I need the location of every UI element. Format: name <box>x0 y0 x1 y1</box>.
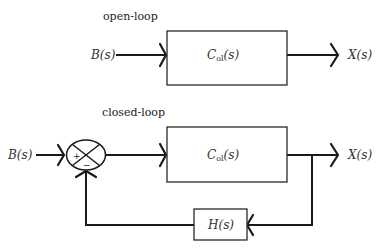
closed-loop-controller-label: Col(s) <box>207 148 239 163</box>
open-loop-caption: open-loop <box>103 10 158 23</box>
closed-loop-input-label: B(s) <box>7 148 33 162</box>
summing-junction: + − <box>67 140 106 170</box>
closed-loop-caption: closed-loop <box>102 106 165 119</box>
open-loop-output-label: X(s) <box>347 48 372 62</box>
open-loop-controller-label: Col(s) <box>207 48 239 63</box>
plus-sign: + <box>73 151 81 161</box>
block-diagram: open-loop B(s) Col(s) X(s) closed-loop B… <box>0 0 380 252</box>
closed-loop-output-label: X(s) <box>347 148 372 162</box>
feedback-block-label: H(s) <box>207 218 234 232</box>
open-loop-input-label: B(s) <box>90 48 116 62</box>
minus-sign: − <box>83 160 91 170</box>
